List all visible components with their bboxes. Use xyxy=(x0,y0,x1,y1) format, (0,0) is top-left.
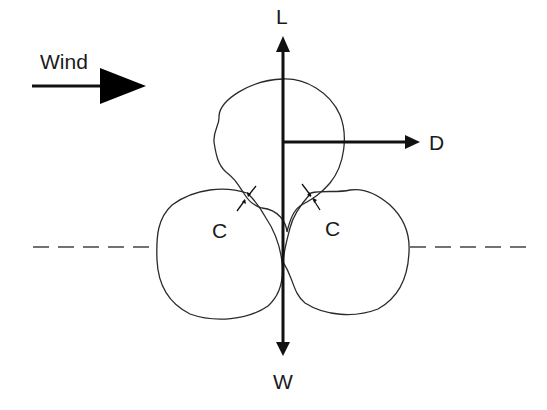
drag-label: D xyxy=(429,131,444,154)
lift-arrowhead-icon xyxy=(276,36,290,52)
wind-label: Wind xyxy=(40,50,88,73)
grain-top xyxy=(214,79,344,232)
lift-label: L xyxy=(276,5,288,28)
contact-label-left: C xyxy=(212,219,227,242)
grain-right xyxy=(283,190,409,315)
contact-label-right: C xyxy=(325,217,340,240)
weight-label: W xyxy=(273,370,293,393)
contact-arrow-right xyxy=(302,184,320,210)
drag-arrowhead-icon xyxy=(405,135,420,149)
particle-force-diagram: Wind L D W C C xyxy=(0,0,547,410)
weight-arrowhead-icon xyxy=(276,342,290,356)
wind-arrow xyxy=(32,68,146,104)
